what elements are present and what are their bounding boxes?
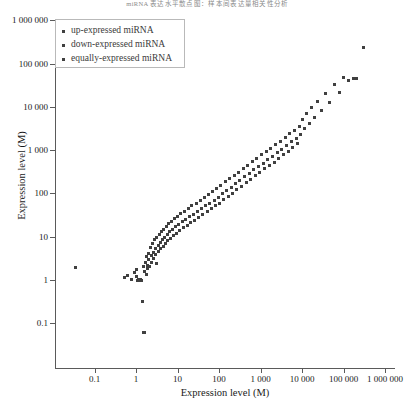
data-point <box>258 171 261 174</box>
y-tick-label: 1 <box>0 275 48 285</box>
data-point <box>263 167 266 170</box>
data-point <box>257 165 260 168</box>
y-tick <box>50 193 55 194</box>
data-point <box>189 221 192 224</box>
x-tick-label: 1 000 000 <box>367 374 403 384</box>
data-point <box>308 122 311 125</box>
data-point <box>193 219 196 222</box>
data-point <box>355 77 358 80</box>
legend-label-up: up-expressed miRNA <box>71 26 154 36</box>
data-point <box>291 146 294 149</box>
data-point <box>210 207 213 210</box>
x-tick-label: 100 000 <box>329 374 358 384</box>
data-point <box>168 230 171 233</box>
data-point <box>192 213 195 216</box>
data-point <box>266 158 269 161</box>
y-axis-title: Expression level (M) <box>16 111 27 241</box>
data-point <box>167 222 170 225</box>
data-point <box>141 300 144 303</box>
data-point <box>242 167 245 170</box>
data-point <box>282 153 285 156</box>
data-point <box>219 184 222 187</box>
data-point <box>268 164 271 167</box>
data-point <box>295 137 298 140</box>
data-point <box>313 116 316 119</box>
data-point <box>338 91 341 94</box>
data-point <box>254 174 257 177</box>
data-point <box>328 101 331 104</box>
data-point <box>231 192 234 195</box>
data-point <box>208 202 211 205</box>
data-point <box>200 207 203 210</box>
data-point <box>162 228 165 231</box>
data-point <box>195 202 198 205</box>
data-point <box>225 189 228 192</box>
data-point <box>299 133 302 136</box>
data-point <box>255 157 258 160</box>
data-point <box>181 220 184 223</box>
data-point <box>150 261 153 264</box>
data-point <box>155 262 158 265</box>
y-tick-label: 0.1 <box>0 318 48 328</box>
data-point <box>251 160 254 163</box>
data-point <box>279 140 282 143</box>
legend-label-equal: equally-expressed miRNA <box>71 54 172 64</box>
data-point <box>260 153 263 156</box>
data-point <box>206 210 209 213</box>
data-point <box>347 79 350 82</box>
data-point <box>162 245 165 248</box>
data-point <box>362 46 365 49</box>
data-point <box>197 216 200 219</box>
legend-marker-icon <box>62 44 65 47</box>
x-axis-title: Expression level (M) <box>55 387 395 398</box>
y-tick <box>50 323 55 324</box>
data-point <box>186 224 189 227</box>
x-tick-label: 100 <box>212 374 226 384</box>
data-point <box>303 127 306 130</box>
data-point <box>245 181 248 184</box>
data-point <box>238 179 241 182</box>
legend-label-down: down-expressed miRNA <box>71 40 165 50</box>
data-point <box>316 100 319 103</box>
data-point <box>230 186 233 189</box>
data-point <box>215 187 218 190</box>
data-point <box>228 177 231 180</box>
data-point <box>271 155 274 158</box>
legend-marker-icon <box>62 58 65 61</box>
x-tick-label: 10 000 <box>290 374 315 384</box>
data-point <box>276 151 279 154</box>
data-point <box>201 213 204 216</box>
y-tick <box>50 280 55 281</box>
data-point <box>160 230 163 233</box>
data-point <box>285 144 288 147</box>
data-point <box>151 242 154 245</box>
data-point <box>235 188 238 191</box>
data-point <box>221 192 224 195</box>
x-tick <box>261 368 262 373</box>
data-point <box>135 268 138 271</box>
data-point <box>74 266 77 269</box>
data-point <box>265 150 268 153</box>
data-point <box>262 162 265 165</box>
data-point <box>296 142 299 145</box>
legend-item-up: up-expressed miRNA <box>62 24 184 38</box>
data-point <box>204 204 207 207</box>
data-point <box>287 150 290 153</box>
x-tick <box>344 368 345 373</box>
data-point <box>175 232 178 235</box>
data-point <box>166 239 169 242</box>
data-point <box>277 157 280 160</box>
data-point <box>310 106 313 109</box>
x-tick <box>136 368 137 373</box>
data-point <box>148 265 151 268</box>
data-point <box>140 279 143 282</box>
data-point <box>158 233 161 236</box>
data-point <box>196 210 199 213</box>
data-point <box>333 83 336 86</box>
data-point <box>188 215 191 218</box>
y-axis-line <box>55 19 56 369</box>
chart-legend: up-expressed miRNA down-expressed miRNA … <box>55 19 185 68</box>
data-point <box>233 174 236 177</box>
data-point <box>284 136 287 139</box>
data-point <box>305 112 308 115</box>
